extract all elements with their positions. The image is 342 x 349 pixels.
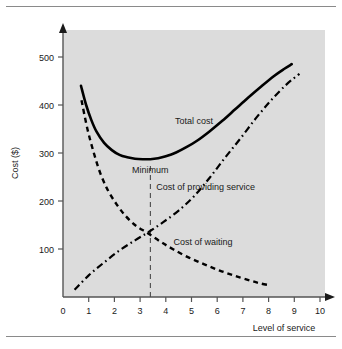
y-axis-title: Cost ($) <box>10 147 20 179</box>
x-axis-tick-label: 8 <box>266 306 271 316</box>
y-axis-tick-label: 200 <box>39 197 54 207</box>
service-cost-tradeoff-chart: 100200300400500012345678910Cost ($)Level… <box>0 0 342 349</box>
series-label-cost-of-providing-service: Cost of providing service <box>156 182 255 192</box>
y-axis-tick-label: 100 <box>39 245 54 255</box>
x-axis-tick-label: 4 <box>163 306 168 316</box>
x-axis-tick-label: 6 <box>215 306 220 316</box>
x-axis-tick-label: 1 <box>86 306 91 316</box>
annotation-minimum: Minimum <box>132 165 169 175</box>
x-axis-tick-label: 3 <box>138 306 143 316</box>
x-axis-tick-label: 10 <box>315 306 325 316</box>
x-axis-tick-label: 2 <box>112 306 117 316</box>
y-axis-tick-label: 300 <box>39 149 54 159</box>
x-axis-tick-label: 5 <box>189 306 194 316</box>
x-axis-tick-label: 0 <box>60 306 65 316</box>
series-label-total-cost: Total cost <box>175 116 214 126</box>
plot-background-panel <box>63 30 325 297</box>
y-axis-tick-label: 400 <box>39 101 54 111</box>
x-axis-tick-label: 7 <box>240 306 245 316</box>
series-label-cost-of-waiting: Cost of waiting <box>174 237 233 247</box>
y-axis-arrowhead <box>59 23 67 33</box>
x-axis-tick-label: 9 <box>292 306 297 316</box>
x-axis-title: Level of service <box>253 323 316 333</box>
figure-container: 100200300400500012345678910Cost ($)Level… <box>0 0 342 349</box>
x-axis-arrowhead <box>325 293 335 301</box>
y-axis-tick-label: 500 <box>39 53 54 63</box>
